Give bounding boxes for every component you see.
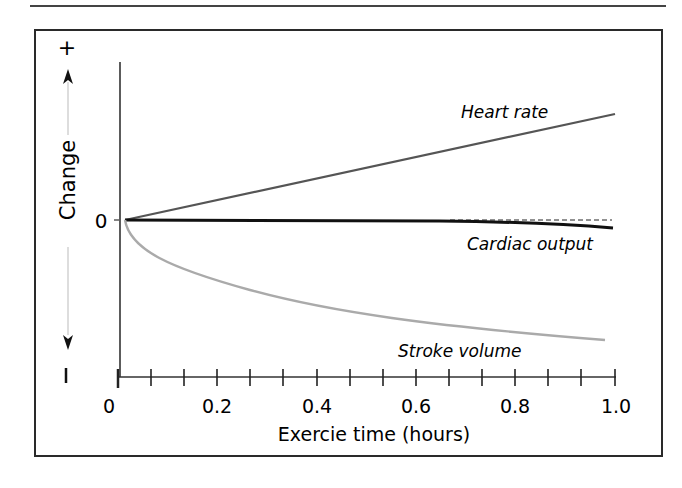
chart-canvas: + Change 0 0 0.2 0.4 0.6 0.8 1. bbox=[0, 0, 682, 488]
x-ticks bbox=[118, 369, 615, 388]
x-tick-label: 0.2 bbox=[202, 395, 232, 417]
arrow-up-icon bbox=[63, 69, 73, 84]
x-tick-label: 0.4 bbox=[302, 395, 332, 417]
y-axis-title: Change bbox=[56, 140, 80, 220]
series-heart-rate bbox=[125, 114, 615, 220]
x-tick-label: 1.0 bbox=[601, 395, 631, 417]
arrow-down-icon bbox=[63, 335, 73, 350]
x-tick-label: 0.6 bbox=[401, 395, 431, 417]
y-direction-indicator: + Change 0 bbox=[56, 35, 119, 383]
x-axis-title: Exercie time (hours) bbox=[278, 423, 470, 445]
y-zero-label: 0 bbox=[95, 209, 108, 233]
x-tick-label: 0.8 bbox=[500, 395, 530, 417]
x-tick-labels: 0 0.2 0.4 0.6 0.8 1.0 bbox=[103, 395, 631, 417]
label-cardiac-output: Cardiac output bbox=[467, 234, 594, 254]
series-cardiac-output bbox=[125, 220, 613, 228]
y-plus-label: + bbox=[58, 35, 76, 60]
label-heart-rate: Heart rate bbox=[461, 102, 548, 122]
label-stroke-volume: Stroke volume bbox=[398, 341, 522, 361]
x-tick-label: 0 bbox=[103, 395, 115, 417]
